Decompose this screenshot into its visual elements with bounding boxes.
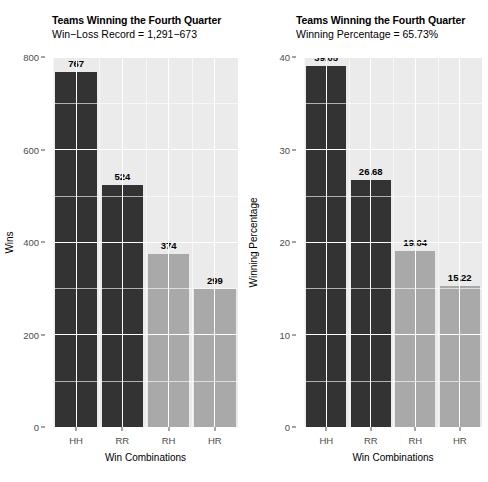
x-axis-tick-mark: [415, 427, 416, 431]
gridline-major-vertical: [76, 57, 77, 427]
gridline-minor-vertical: [192, 57, 193, 427]
y-axis-tick-label: 800: [23, 52, 39, 63]
y-axis-tick-mark: [41, 57, 45, 58]
x-axis-tick-mark: [214, 427, 215, 431]
x-axis-win-combinations: HHRRRHHR: [53, 427, 238, 449]
gridline-minor-vertical: [146, 57, 147, 427]
x-axis-tick-label-HR: HR: [453, 435, 467, 446]
chart-title-block-left: Teams Winning the Fourth Quarter Win−Los…: [52, 14, 238, 41]
plot-area-wins: 767524374299: [53, 57, 238, 427]
chart-title: Teams Winning the Fourth Quarter: [296, 14, 482, 27]
figure-two-panel-bar-charts: Teams Winning the Fourth Quarter Win−Los…: [0, 0, 488, 482]
chart-title: Teams Winning the Fourth Quarter: [52, 14, 238, 27]
y-axis-tick-label: 0: [285, 422, 290, 433]
gridline-minor-vertical: [438, 57, 439, 427]
gridline-major-vertical: [370, 57, 371, 427]
y-axis-tick-label: 10: [279, 329, 290, 340]
y-axis-tick-mark: [41, 242, 45, 243]
gridline-minor-vertical: [304, 57, 305, 427]
x-axis-tick-label-HH: HH: [319, 435, 333, 446]
gridline-minor-vertical: [393, 57, 394, 427]
x-axis-tick-mark: [76, 427, 77, 431]
x-axis-tick-mark: [459, 427, 460, 431]
y-axis-tick-label: 400: [23, 237, 39, 248]
gridline-major-vertical: [122, 57, 123, 427]
y-axis-tick-label: 30: [279, 144, 290, 155]
gridline-minor-vertical: [349, 57, 350, 427]
chart-title-block-right: Teams Winning the Fourth Quarter Winning…: [296, 14, 482, 41]
gridline-major-vertical: [415, 57, 416, 427]
chart-subtitle: Win−Loss Record = 1,291−673: [52, 27, 238, 41]
x-axis-tick-label-RH: RH: [408, 435, 422, 446]
x-axis-tick-label-RR: RR: [364, 435, 378, 446]
y-axis-tick-mark: [41, 334, 45, 335]
gridline-major-vertical: [214, 57, 215, 427]
plot-area-winning-percentage: 39.0526.6819.0415.22: [304, 57, 482, 427]
x-axis-tick-mark: [168, 427, 169, 431]
y-axis-tick-mark: [292, 242, 296, 243]
x-axis-tick-label-RH: RH: [162, 435, 176, 446]
y-axis-tick-label: 0: [34, 422, 39, 433]
y-axis-tick-mark: [292, 57, 296, 58]
x-axis-title: Win Combinations: [53, 452, 238, 463]
x-axis-win-combinations: HHRRRHHR: [304, 427, 482, 449]
y-axis-tick-mark: [41, 149, 45, 150]
x-axis-title: Win Combinations: [304, 452, 482, 463]
chart-panel-winning-percentage: Teams Winning the Fourth Quarter Winning…: [244, 0, 488, 482]
y-axis-tick-mark: [292, 427, 296, 428]
y-axis-tick-label: 20: [279, 237, 290, 248]
x-axis-tick-mark: [122, 427, 123, 431]
y-axis-tick-mark: [292, 334, 296, 335]
x-axis-tick-label-RR: RR: [116, 435, 130, 446]
gridline-major-vertical: [459, 57, 460, 427]
chart-panel-wins: Teams Winning the Fourth Quarter Win−Los…: [0, 0, 244, 482]
y-axis-tick-mark: [41, 427, 45, 428]
chart-subtitle: Winning Percentage = 65.73%: [296, 27, 482, 41]
x-axis-tick-mark: [370, 427, 371, 431]
y-axis-tick-label: 600: [23, 144, 39, 155]
x-axis-tick-label-HR: HR: [208, 435, 222, 446]
y-axis-tick-mark: [292, 149, 296, 150]
y-axis-wins: 0200400600800: [0, 57, 48, 427]
y-axis-tick-label: 40: [279, 52, 290, 63]
gridline-major-vertical: [326, 57, 327, 427]
y-axis-tick-label: 200: [23, 329, 39, 340]
gridline-major-vertical: [168, 57, 169, 427]
gridline-minor-vertical: [99, 57, 100, 427]
x-axis-tick-mark: [326, 427, 327, 431]
y-axis-winning-percentage: 010203040: [244, 57, 299, 427]
gridline-minor-vertical: [53, 57, 54, 427]
x-axis-tick-label-HH: HH: [69, 435, 83, 446]
